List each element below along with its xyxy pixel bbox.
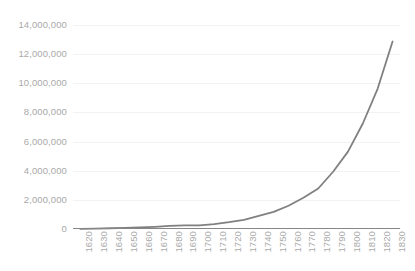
x-tick-label: 1670 <box>159 231 169 271</box>
y-tick-label: 12,000,000 <box>1 49 67 59</box>
x-tick-label: 1800 <box>352 231 362 271</box>
chart-container: 02,000,0004,000,0006,000,0008,000,00010,… <box>0 0 415 271</box>
x-tick-label: 1690 <box>188 231 198 271</box>
x-tick-label: 1680 <box>174 231 184 271</box>
y-tick-label: 8,000,000 <box>1 107 67 117</box>
x-tick-label: 1710 <box>218 231 228 271</box>
x-tick-label: 1770 <box>307 231 317 271</box>
x-tick-label: 1760 <box>293 231 303 271</box>
population-line <box>80 42 392 229</box>
y-axis: 02,000,0004,000,0006,000,0008,000,00010,… <box>0 0 70 271</box>
x-tick-label: 1700 <box>203 231 213 271</box>
x-tick-label: 1640 <box>114 231 124 271</box>
x-tick-label: 1780 <box>322 231 332 271</box>
x-tick-label: 1810 <box>367 231 377 271</box>
x-tick-label: 1620 <box>84 231 94 271</box>
x-tick-label: 1740 <box>263 231 273 271</box>
x-tick-label: 1830 <box>397 231 407 271</box>
line-series <box>73 25 400 229</box>
x-tick-label: 1630 <box>99 231 109 271</box>
y-tick-label: 0 <box>1 224 67 234</box>
x-tick-label: 1750 <box>278 231 288 271</box>
x-tick-label: 1660 <box>144 231 154 271</box>
x-axis: 1620163016401650166016701680169017001710… <box>73 229 400 271</box>
x-tick-label: 1820 <box>382 231 392 271</box>
x-tick-label: 1790 <box>337 231 347 271</box>
y-tick-label: 4,000,000 <box>1 166 67 176</box>
x-tick-label: 1650 <box>129 231 139 271</box>
y-tick-label: 6,000,000 <box>1 137 67 147</box>
y-tick-label: 10,000,000 <box>1 78 67 88</box>
y-tick-label: 2,000,000 <box>1 195 67 205</box>
x-tick-label: 1730 <box>248 231 258 271</box>
plot-area <box>73 25 400 229</box>
y-tick-label: 14,000,000 <box>1 20 67 30</box>
x-tick-label: 1720 <box>233 231 243 271</box>
